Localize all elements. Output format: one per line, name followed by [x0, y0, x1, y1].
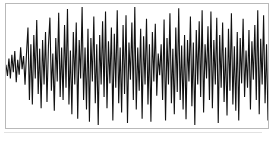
waveform-polyline — [6, 7, 268, 125]
waveform-trace — [6, 4, 268, 128]
plot-frame — [5, 3, 269, 129]
waveform-figure — [0, 0, 274, 141]
scan-artifact-line — [4, 132, 262, 133]
